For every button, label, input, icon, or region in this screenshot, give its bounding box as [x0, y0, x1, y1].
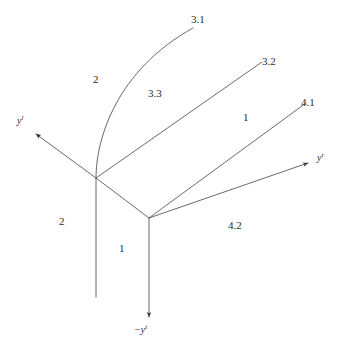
label-3-3: 3.3: [148, 88, 162, 99]
diagram-canvas: [0, 0, 349, 357]
edge-left-to-right-line: [96, 178, 149, 218]
edge-left-to-3-1-curve: [96, 28, 193, 178]
label-4-1: 4.1: [301, 97, 315, 108]
edge-right-to-4-1-line: [149, 103, 306, 218]
label-1-lower: 1: [119, 243, 125, 254]
edge-left-to-3-2-line: [96, 62, 262, 178]
label-3-1: 3.1: [191, 14, 205, 25]
label-4-2: 4.2: [228, 220, 242, 231]
diagram-root: 3.1 3.2 3.3 4.1 4.2 2 2 1 1 yl yr −yt: [0, 0, 349, 357]
label-2-upper: 2: [93, 74, 99, 85]
axis-arrow-y-right: [149, 163, 308, 218]
label-2-lower: 2: [59, 216, 65, 227]
axis-label-y-bottom: −yt: [134, 324, 147, 335]
label-1-middle: 1: [243, 112, 249, 123]
label-3-2: 3.2: [262, 56, 276, 67]
axis-arrow-y-left: [36, 134, 96, 178]
axis-label-y-right: yr: [317, 152, 324, 163]
axis-label-y-left: yl: [17, 115, 23, 126]
axis-label-y-left-sup: l: [21, 114, 23, 122]
axis-label-y-bottom-sup: t: [145, 323, 147, 331]
axis-label-y-bottom-base: −y: [134, 324, 145, 335]
axis-label-y-right-sup: r: [321, 151, 324, 159]
